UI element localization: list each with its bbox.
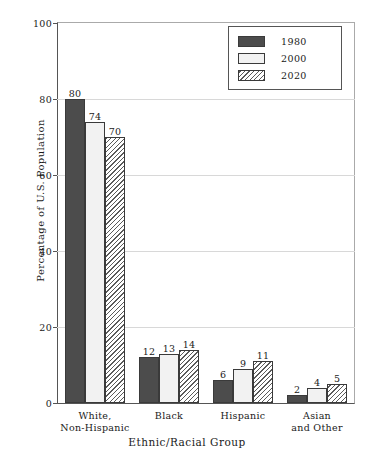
x-category-line: White, <box>58 410 132 422</box>
bar-slot: 74 <box>85 23 105 403</box>
bar-slot: 13 <box>159 23 179 403</box>
bar-value-label: 11 <box>257 350 270 361</box>
bar: 11 <box>253 361 273 403</box>
bar: 2 <box>287 395 307 403</box>
legend-label-2000: 2000 <box>281 53 307 64</box>
bar-value-label: 5 <box>334 373 340 384</box>
bar-value-label: 9 <box>240 358 246 369</box>
y-tick-label: 40 <box>0 246 52 257</box>
bar-group: 121314 <box>132 23 206 403</box>
y-tick-mark <box>53 23 57 24</box>
bar-slot: 12 <box>139 23 159 403</box>
legend-item: 2020 <box>238 68 333 82</box>
bar-value-label: 74 <box>89 111 102 122</box>
bar: 4 <box>307 388 327 403</box>
x-category-label: Asianand Other <box>280 410 354 434</box>
bar: 70 <box>105 137 125 403</box>
bar-value-label: 14 <box>183 339 196 350</box>
x-category-line: Non-Hispanic <box>58 422 132 434</box>
bar: 5 <box>327 384 347 403</box>
legend-swatch-1980 <box>238 36 265 47</box>
bar-slot: 80 <box>65 23 85 403</box>
x-axis-title: Ethnic/Racial Group <box>0 436 374 448</box>
legend-label-2020: 2020 <box>281 70 307 81</box>
bar: 13 <box>159 354 179 403</box>
legend-swatch-2020 <box>238 70 265 81</box>
y-tick-label: 20 <box>0 322 52 333</box>
bar: 6 <box>213 380 233 403</box>
x-category-label: White,Non-Hispanic <box>58 410 132 434</box>
bar-slot: 70 <box>105 23 125 403</box>
x-category-line: Hispanic <box>206 410 280 422</box>
legend-label-1980: 1980 <box>281 36 307 47</box>
bar-value-label: 13 <box>163 343 176 354</box>
bar: 12 <box>139 357 159 403</box>
bar: 80 <box>65 99 85 403</box>
bar-chart: Percentage of U.S. Population 0204060801… <box>0 0 374 458</box>
bar-slot: 14 <box>179 23 199 403</box>
legend: 1980 2000 2020 <box>228 26 342 90</box>
bar-value-label: 70 <box>109 126 122 137</box>
bar-value-label: 4 <box>314 377 320 388</box>
bar: 14 <box>179 350 199 403</box>
bar-group: 807470 <box>58 23 132 403</box>
bar-value-label: 2 <box>294 384 300 395</box>
bar-value-label: 80 <box>69 88 82 99</box>
y-axis-title: Percentage of U.S. Population <box>35 71 46 331</box>
y-tick-label: 80 <box>0 94 52 105</box>
x-category-line: and Other <box>280 422 354 434</box>
x-category-label: Black <box>132 410 206 422</box>
bar-value-label: 6 <box>220 369 226 380</box>
x-category-label: Hispanic <box>206 410 280 422</box>
bar: 9 <box>233 369 253 403</box>
y-tick-mark <box>53 403 57 404</box>
x-category-line: Black <box>132 410 206 422</box>
y-tick-label: 100 <box>0 18 52 29</box>
y-tick-label: 0 <box>0 398 52 409</box>
legend-swatch-2000 <box>238 53 265 64</box>
bar: 74 <box>85 122 105 403</box>
legend-item: 1980 <box>238 34 333 48</box>
y-tick-label: 60 <box>0 170 52 181</box>
x-category-line: Asian <box>280 410 354 422</box>
bar-value-label: 12 <box>143 346 156 357</box>
legend-item: 2000 <box>238 51 333 65</box>
